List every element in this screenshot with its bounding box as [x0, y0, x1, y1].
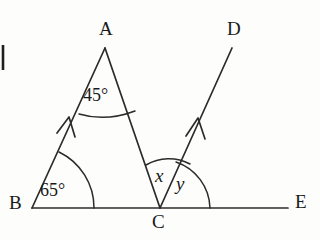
- angle-arc-x: [146, 159, 190, 165]
- vertex-label-E: E: [295, 192, 307, 211]
- vertex-label-B: B: [9, 193, 22, 212]
- vertex-label-A: A: [99, 19, 113, 38]
- ray-CD: [160, 48, 232, 208]
- geometry-figure: A B C D E 45° 65° x y: [0, 0, 320, 240]
- angle-label-A: 45°: [83, 86, 108, 104]
- vertex-label-C: C: [152, 212, 165, 231]
- angle-label-x: x: [155, 166, 163, 185]
- geometry-canvas: [0, 0, 320, 240]
- angle-label-B: 65°: [40, 181, 65, 199]
- segment-AC: [105, 48, 160, 208]
- vertex-label-D: D: [227, 19, 241, 38]
- angle-label-y: y: [176, 174, 184, 193]
